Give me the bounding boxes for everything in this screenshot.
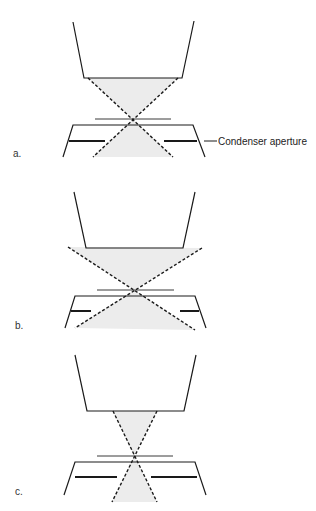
beam-cone-upper [88, 78, 178, 119]
panel-label-a: a. [13, 148, 21, 159]
objective-lens-outline [74, 192, 195, 248]
condenser-aperture-label: Condenser aperture [218, 136, 307, 147]
beam-cone-upper [68, 247, 202, 290]
diagram-panels: a.b.c. [13, 21, 206, 502]
panel-label-b: b. [15, 320, 23, 331]
beam-cone-upper [113, 411, 157, 456]
condenser-aperture-diagram: a.b.c. Condenser aperture [0, 0, 316, 511]
condenser-aperture-annotation: Condenser aperture [204, 136, 307, 147]
panel-c: c. [15, 355, 206, 502]
panel-label-c: c. [15, 486, 23, 497]
panel-b: b. [15, 192, 206, 331]
panel-a: a. [13, 21, 205, 159]
beam-cone-lower [112, 456, 157, 502]
objective-lens-outline [75, 355, 196, 411]
objective-lens-outline [73, 21, 194, 78]
